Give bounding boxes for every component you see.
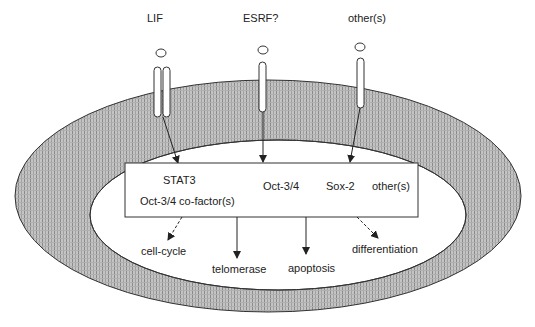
cell-diagram (0, 0, 535, 327)
outcome-apoptosis: apoptosis (288, 262, 335, 274)
other-receptor-icon (355, 43, 365, 108)
ligand-lif-label: LIF (147, 12, 163, 24)
outcome-cell-cycle: cell-cycle (141, 245, 186, 257)
sox2-label: Sox-2 (326, 180, 355, 192)
ligand-esrf-label: ESRF? (243, 12, 278, 24)
oct-cofactor-label: Oct-3/4 co-factor(s) (140, 195, 235, 207)
stat3-label: STAT3 (163, 174, 196, 186)
ligand-other-label: other(s) (348, 12, 386, 24)
outcome-telomerase: telomerase (212, 263, 266, 275)
oct34-label: Oct-3/4 (263, 180, 299, 192)
other-factors-label: other(s) (372, 180, 410, 192)
esrf-receptor-icon (258, 46, 268, 112)
outcome-differentiation: differentiation (352, 243, 418, 255)
